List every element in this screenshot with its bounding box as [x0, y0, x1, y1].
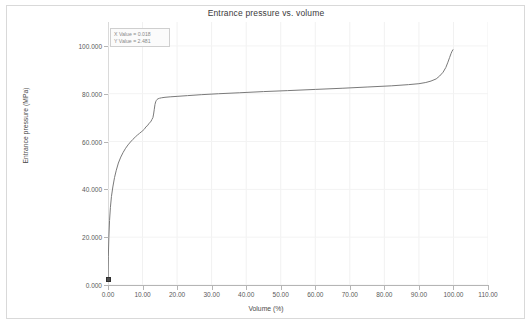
x-tick-mark	[488, 286, 489, 290]
y-tick-label: 80.000	[82, 90, 102, 97]
x-tick-mark	[108, 286, 109, 290]
y-tick-label: 100.000	[79, 42, 103, 49]
y-tick-label: 0.000	[86, 282, 102, 289]
y-tick-mark	[104, 237, 108, 238]
data-point-tooltip: X Value = 0.018 Y Value = 2.481	[110, 28, 170, 47]
page-title: Entrance pressure vs. volume	[0, 8, 532, 18]
y-axis-title: Entrance pressure (MPa)	[22, 56, 29, 196]
x-tick-mark	[143, 286, 144, 290]
x-axis-line	[108, 285, 489, 286]
x-tick-mark	[281, 286, 282, 290]
y-tick-mark	[104, 142, 108, 143]
series-line-entrance-pressure	[108, 22, 488, 285]
x-tick-mark	[384, 286, 385, 290]
selected-data-point-marker[interactable]	[106, 277, 111, 282]
x-axis-title: Volume (%)	[0, 305, 532, 312]
x-tick-label: 110.00	[468, 291, 508, 298]
x-tick-mark	[315, 286, 316, 290]
y-tick-mark	[104, 46, 108, 47]
tooltip-x-value: X Value = 0.018	[114, 31, 166, 38]
x-tick-mark	[419, 286, 420, 290]
y-tick-label: 60.000	[82, 138, 102, 145]
y-tick-mark	[104, 94, 108, 95]
y-tick-label: 40.000	[82, 186, 102, 193]
x-tick-mark	[212, 286, 213, 290]
x-tick-mark	[177, 286, 178, 290]
x-tick-mark	[350, 286, 351, 290]
y-tick-label: 20.000	[82, 234, 102, 241]
x-tick-mark	[453, 286, 454, 290]
y-tick-mark	[104, 189, 108, 190]
chart-screenshot: Entrance pressure vs. volume 0.00020.000…	[0, 0, 532, 325]
x-tick-mark	[246, 286, 247, 290]
tooltip-y-value: Y Value = 2.481	[114, 38, 166, 45]
plot-area[interactable]	[108, 22, 488, 285]
